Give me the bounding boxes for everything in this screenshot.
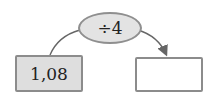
input-value: 1,08	[30, 64, 68, 84]
operation-ellipse: ÷4	[78, 12, 142, 44]
arc-right-arrow	[138, 30, 166, 54]
arc-left	[50, 30, 80, 55]
operation-label: ÷4	[97, 18, 122, 38]
input-box: 1,08	[15, 55, 83, 92]
output-answer-box[interactable]	[135, 57, 203, 92]
